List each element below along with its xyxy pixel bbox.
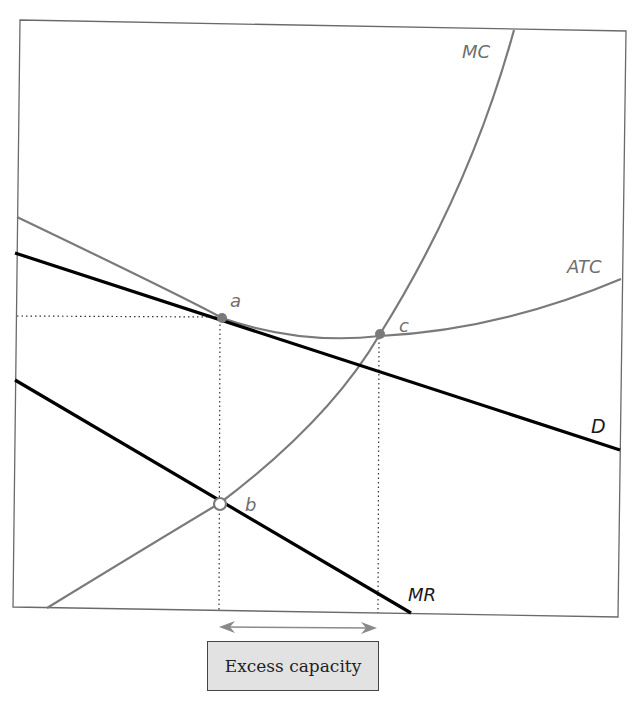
point-b-label: b (245, 494, 256, 515)
point-a-marker (217, 313, 227, 323)
point-c-label: c (399, 315, 409, 336)
point-b-marker (214, 498, 226, 510)
point-a-label: a (230, 290, 241, 311)
price-guide-line (17, 316, 220, 317)
demand-curve (15, 253, 620, 450)
mc-label: MC (462, 41, 491, 62)
excess-capacity-caption: Excess capacity (207, 641, 379, 691)
atc-label: ATC (566, 256, 602, 277)
d-label: D (591, 415, 606, 437)
mc-curve (47, 30, 514, 608)
plot-frame (13, 20, 626, 617)
excess-capacity-diagram: MC ATC D MR a b c (0, 0, 640, 717)
mr-label: MR (408, 584, 436, 605)
mr-curve (15, 380, 411, 613)
quantity-guide-line-a (219, 320, 220, 611)
point-c-marker (375, 329, 385, 339)
quantity-guide-line-c (378, 338, 379, 613)
atc-curve (17, 217, 621, 338)
excess-capacity-arrow (219, 621, 377, 634)
